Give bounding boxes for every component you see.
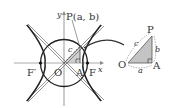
focus-left-dot (39, 61, 42, 64)
inset-triangle (126, 33, 156, 68)
point-p-label: P(a, b) (66, 11, 99, 22)
inset-c-label: c (134, 39, 139, 48)
inset-o-label: O (118, 59, 126, 70)
focus-left-label: F′ (27, 67, 37, 78)
hyperbola-diagram: y P(a, b) c F′ O A F x P c b O A a (0, 0, 174, 108)
point-a-label: A (75, 67, 84, 78)
y-axis-label: y (56, 10, 62, 19)
inset-p-label: P (147, 24, 154, 35)
origin-label: O (54, 67, 62, 78)
focus-right-label: F (89, 67, 96, 78)
inset-a-side-label: a (138, 66, 143, 75)
x-axis-label: x (98, 65, 103, 74)
inset-b-label: b (155, 45, 160, 54)
c-label-main: c (68, 45, 73, 54)
focus-right-dot (86, 61, 89, 64)
p-leader-line (72, 20, 79, 44)
inset-a-label: A (152, 60, 161, 71)
